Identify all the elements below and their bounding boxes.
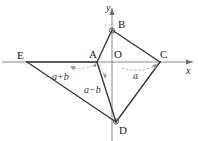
segment-ed [27, 62, 116, 122]
angle-arc-a-plus-b [74, 64, 95, 69]
angle-arc-a [122, 66, 155, 70]
y-axis-label: y [106, 3, 110, 13]
point-label-a: A [89, 49, 97, 60]
angle-label-a-plus-b: a+b [52, 72, 69, 82]
point-label-d: D [119, 125, 127, 136]
x-axis-label: x [186, 66, 190, 76]
axes-group [2, 8, 193, 141]
vertex-dot-a [96, 61, 98, 63]
point-label-b: B [118, 19, 125, 30]
segment-ab [97, 30, 112, 62]
arrowhead-a-minus-b [103, 74, 107, 79]
vertex-dot-e [26, 61, 28, 63]
segments-group [27, 30, 160, 122]
figure-canvas [0, 0, 198, 141]
point-label-o: O [114, 49, 122, 60]
point-label-c: C [160, 49, 167, 60]
angle-label-a: a [133, 71, 138, 81]
angle-arcs-group [74, 64, 155, 77]
point-label-e: E [17, 50, 24, 61]
angle-label-a-minus-b: a−b [84, 85, 101, 95]
geometry-figure: E A O B C D x y a+b a−b a [0, 0, 198, 141]
arrowhead-a-plus-b-right [93, 63, 98, 68]
segment-cd [116, 62, 160, 122]
x-axis-arrowhead [186, 59, 193, 64]
right-angle-markers-group [109, 28, 118, 124]
angle-arc-arrowheads-group [70, 63, 158, 80]
vertex-dot-c [159, 61, 161, 63]
